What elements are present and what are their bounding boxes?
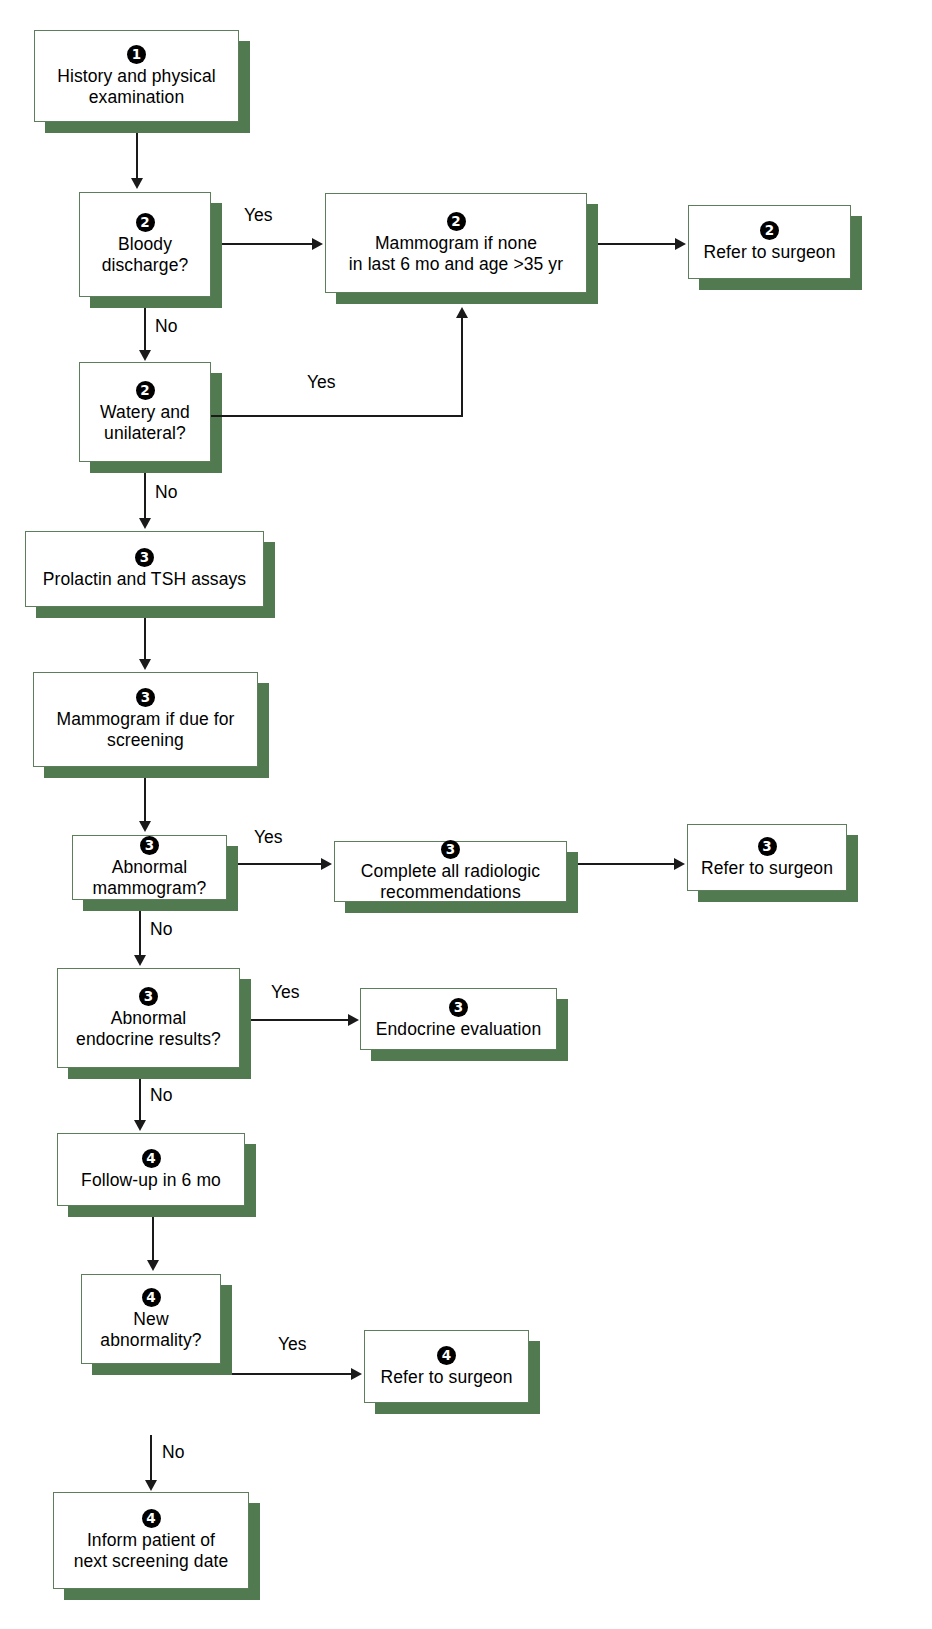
node-refer-to-surgeon-step2[interactable]: 2 Refer to surgeon <box>688 205 851 279</box>
edge-prolactin-to-mammoscreen-line <box>144 618 146 662</box>
node-label: Abnormal endocrine results? <box>76 1008 221 1049</box>
step-badge: 3 <box>441 840 460 859</box>
node-face: 3 Abnormal endocrine results? <box>57 968 240 1068</box>
edge-bloody-yes-line <box>222 243 314 245</box>
node-inform-patient-next-screening[interactable]: 4 Inform patient of next screening date <box>53 1492 249 1589</box>
edge-mammoscreen-to-abnormal-line <box>144 778 146 824</box>
edge-history-to-bloody-line <box>136 133 138 181</box>
node-face: 2 Bloody discharge? <box>79 192 211 297</box>
step-badge: 4 <box>437 1346 456 1365</box>
node-face: 1 History and physical examination <box>34 30 239 122</box>
node-label: Refer to surgeon <box>381 1367 513 1388</box>
edge-watery-yes-arrowhead <box>456 307 468 318</box>
node-abnormal-mammogram[interactable]: 3 Abnormal mammogram? <box>72 835 227 900</box>
node-refer-to-surgeon-step4[interactable]: 4 Refer to surgeon <box>364 1330 529 1403</box>
edge-followup-to-newabnormality-line <box>152 1217 154 1263</box>
node-bloody-discharge[interactable]: 2 Bloody discharge? <box>79 192 211 297</box>
edge-radiologic-to-refer-arrowhead <box>674 858 685 870</box>
edge-newabn-no-line <box>150 1435 152 1483</box>
node-label: Complete all radiologic recommendations <box>361 861 540 902</box>
edge-bloody-yes-arrowhead <box>312 238 323 250</box>
node-label: Inform patient of next screening date <box>74 1530 229 1571</box>
step-badge: 3 <box>140 836 159 855</box>
step-badge: 2 <box>136 381 155 400</box>
edge-newabn-yes-arrowhead <box>351 1368 362 1380</box>
edge-watery-no-arrowhead <box>139 518 151 529</box>
node-face: 3 Mammogram if due for screening <box>33 672 258 767</box>
step-badge: 2 <box>136 213 155 232</box>
edge-abnmammo-yes-arrowhead <box>321 858 332 870</box>
node-watery-and-unilateral[interactable]: 2 Watery and unilateral? <box>79 362 211 462</box>
node-abnormal-endocrine-results[interactable]: 3 Abnormal endocrine results? <box>57 968 240 1068</box>
node-complete-radiologic-recommendations[interactable]: 3 Complete all radiologic recommendation… <box>334 841 567 902</box>
node-face: 2 Refer to surgeon <box>688 205 851 279</box>
node-new-abnormality[interactable]: 4 New abnormality? <box>81 1274 221 1364</box>
edge-abnmammo-no-arrowhead <box>134 955 146 966</box>
edge-mammogram-to-refer-line <box>598 243 678 245</box>
node-follow-up-6-mo[interactable]: 4 Follow-up in 6 mo <box>57 1133 245 1206</box>
step-badge: 3 <box>758 837 777 856</box>
edge-abnendo-no-arrowhead <box>134 1120 146 1131</box>
node-face: 4 Follow-up in 6 mo <box>57 1133 245 1206</box>
node-label: History and physical examination <box>57 66 216 107</box>
node-label: Endocrine evaluation <box>376 1019 541 1040</box>
edge-abnendo-yes-arrowhead <box>348 1014 359 1026</box>
step-badge: 3 <box>139 987 158 1006</box>
edge-watery-yes-vline <box>461 318 463 416</box>
node-face: 3 Abnormal mammogram? <box>72 835 227 900</box>
edge-watery-yes-hline <box>211 415 463 417</box>
node-mammogram-if-due[interactable]: 3 Mammogram if due for screening <box>33 672 258 767</box>
edge-label-abnmammo-no: No <box>150 921 172 939</box>
step-badge: 3 <box>449 998 468 1017</box>
edge-label-abnendo-yes: Yes <box>271 984 300 1002</box>
edge-bloody-no-line <box>144 308 146 353</box>
node-label: Mammogram if none in last 6 mo and age >… <box>349 233 563 274</box>
edge-mammoscreen-to-abnormal-arrowhead <box>139 821 151 832</box>
node-face: 2 Watery and unilateral? <box>79 362 211 462</box>
node-label: Watery and unilateral? <box>100 402 190 443</box>
edge-label-abnmammo-yes: Yes <box>254 829 283 847</box>
edge-abnmammo-no-line <box>139 911 141 958</box>
node-face: 4 Refer to surgeon <box>364 1330 529 1403</box>
edge-watery-no-line <box>144 473 146 521</box>
step-badge: 4 <box>142 1149 161 1168</box>
edge-label-newabn-yes: Yes <box>278 1336 307 1354</box>
edge-history-to-bloody-arrowhead <box>131 178 143 189</box>
node-refer-to-surgeon-step3[interactable]: 3 Refer to surgeon <box>687 824 847 891</box>
edge-label-bloody-yes: Yes <box>244 207 273 225</box>
edge-label-newabn-no: No <box>162 1444 184 1462</box>
node-mammogram-if-none[interactable]: 2 Mammogram if none in last 6 mo and age… <box>325 193 587 293</box>
node-face: 3 Complete all radiologic recommendation… <box>334 841 567 902</box>
edge-abnendo-yes-line <box>251 1019 350 1021</box>
step-badge: 1 <box>127 45 146 64</box>
step-badge: 2 <box>760 221 779 240</box>
node-face: 3 Prolactin and TSH assays <box>25 531 264 607</box>
node-label: Follow-up in 6 mo <box>81 1170 221 1191</box>
edge-followup-to-newabnormality-arrowhead <box>147 1260 159 1271</box>
edge-label-abnendo-no: No <box>150 1087 172 1105</box>
node-prolactin-tsh-assays[interactable]: 3 Prolactin and TSH assays <box>25 531 264 607</box>
edge-label-watery-yes: Yes <box>307 374 336 392</box>
step-badge: 3 <box>135 548 154 567</box>
node-label: Refer to surgeon <box>701 858 833 879</box>
step-badge: 4 <box>142 1288 161 1307</box>
edge-mammogram-to-refer-arrowhead <box>675 238 686 250</box>
step-badge: 3 <box>136 688 155 707</box>
edge-bloody-no-arrowhead <box>139 350 151 361</box>
node-label: Mammogram if due for screening <box>56 709 234 750</box>
node-face: 3 Refer to surgeon <box>687 824 847 891</box>
node-label: Refer to surgeon <box>704 242 836 263</box>
edge-newabn-no-arrowhead <box>145 1480 157 1491</box>
edge-abnmammo-yes-line <box>238 863 323 865</box>
edge-newabn-yes-line <box>232 1373 353 1375</box>
edge-abnendo-no-line <box>139 1079 141 1123</box>
node-label: New abnormality? <box>100 1309 201 1350</box>
node-endocrine-evaluation[interactable]: 3 Endocrine evaluation <box>360 988 557 1050</box>
node-label: Prolactin and TSH assays <box>43 569 246 590</box>
node-label: Abnormal mammogram? <box>93 857 207 898</box>
node-face: 4 New abnormality? <box>81 1274 221 1364</box>
edge-label-watery-no: No <box>155 484 177 502</box>
step-badge: 4 <box>142 1509 161 1528</box>
edge-radiologic-to-refer-line <box>578 863 676 865</box>
node-history-and-physical[interactable]: 1 History and physical examination <box>34 30 239 122</box>
